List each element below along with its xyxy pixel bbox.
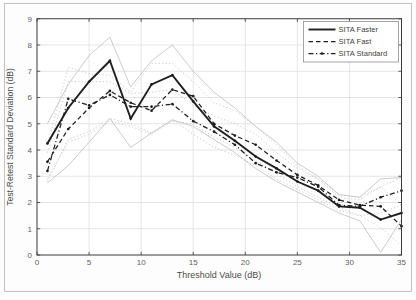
x-tick-label: 10	[137, 258, 146, 267]
y-tick-label: 6	[28, 93, 33, 102]
series-sita-faster-marker	[317, 189, 320, 192]
series-sita-fast-marker	[129, 101, 132, 104]
series-sita-faster-marker	[379, 218, 382, 221]
series-sita-faster-marker	[192, 100, 195, 103]
series-sita-fast-marker	[67, 128, 70, 131]
x-tick-label: 0	[35, 258, 40, 267]
series-sita-faster-marker	[275, 167, 278, 170]
series-sita-standard-marker	[379, 196, 382, 199]
series-sita-standard-marker	[296, 176, 299, 179]
series-sita-faster-marker	[213, 125, 216, 128]
series-sita-standard-marker	[234, 143, 237, 146]
series-sita-standard-marker	[88, 104, 91, 107]
series-sita-standard-marker	[150, 105, 153, 108]
series-sita-fast-marker	[275, 159, 278, 162]
series-sita-fast-marker	[192, 95, 195, 98]
y-axis-label: Test-Retest Standard Deviation (dB)	[5, 68, 15, 206]
series-sita-fast-marker	[109, 90, 112, 93]
chart-figure: 051015202530350123456789SITA FasterSITA …	[0, 0, 416, 300]
series-sita-fast-marker	[317, 184, 320, 187]
series-sita-fast-marker	[46, 160, 49, 163]
y-tick-label: 3	[28, 172, 33, 181]
line-chart: 051015202530350123456789SITA FasterSITA …	[0, 0, 416, 300]
y-tick-label: 5	[28, 120, 33, 129]
legend-label: SITA Standard	[339, 49, 388, 58]
y-tick-label: 2	[28, 198, 33, 207]
series-sita-standard-marker	[213, 130, 216, 133]
x-tick-label: 5	[87, 258, 92, 267]
series-sita-faster-marker	[338, 205, 341, 208]
series-sita-fast-marker	[358, 204, 361, 207]
series-sita-fast-marker	[379, 205, 382, 208]
x-tick-label: 15	[189, 258, 198, 267]
x-tick-label: 35	[397, 258, 406, 267]
series-sita-faster-marker	[296, 180, 299, 183]
series-sita-standard-marker	[254, 162, 257, 165]
series-sita-faster-marker	[129, 117, 132, 120]
series-sita-standard-marker	[109, 94, 112, 97]
legend-sample-marker	[321, 52, 324, 55]
series-sita-fast-marker	[254, 143, 257, 146]
series-sita-fast-marker	[296, 174, 299, 177]
y-tick-label: 7	[28, 67, 33, 76]
y-tick-label: 0	[28, 251, 33, 260]
x-tick-label: 30	[345, 258, 354, 267]
series-sita-faster-marker	[46, 142, 49, 145]
series-sita-standard-marker	[67, 97, 70, 100]
series-sita-faster-marker	[254, 155, 257, 158]
series-sita-faster-marker	[171, 74, 174, 77]
series-sita-fast-marker	[150, 109, 153, 112]
series-sita-standard-marker	[171, 103, 174, 106]
series-sita-fast-marker	[338, 199, 341, 202]
x-axis-label: Threshold Value (dB)	[177, 270, 261, 280]
series-sita-standard-marker	[46, 170, 49, 173]
series-sita-fast-marker	[171, 88, 174, 91]
series-sita-faster-marker	[67, 107, 70, 110]
series-sita-faster-marker	[358, 206, 361, 209]
series-sita-standard-marker	[129, 105, 132, 108]
chart-generated-content: 051015202530350123456789SITA FasterSITA …	[5, 4, 412, 292]
y-tick-label: 4	[28, 146, 33, 155]
x-tick-label: 20	[241, 258, 250, 267]
legend-label: SITA Fast	[339, 37, 373, 46]
series-sita-faster-marker	[88, 80, 91, 83]
y-tick-label: 1	[28, 225, 33, 234]
series-sita-fast-marker	[234, 134, 237, 137]
y-tick-label: 8	[28, 41, 33, 50]
series-sita-fast-marker	[88, 107, 91, 110]
series-sita-standard-marker	[275, 171, 278, 174]
series-sita-faster-marker	[109, 59, 112, 62]
y-tick-label: 9	[28, 15, 33, 24]
series-sita-faster-marker	[234, 139, 237, 142]
series-sita-standard-marker	[192, 120, 195, 123]
x-tick-label: 25	[293, 258, 302, 267]
legend-label: SITA Faster	[339, 25, 379, 34]
series-sita-faster-marker	[150, 83, 153, 86]
